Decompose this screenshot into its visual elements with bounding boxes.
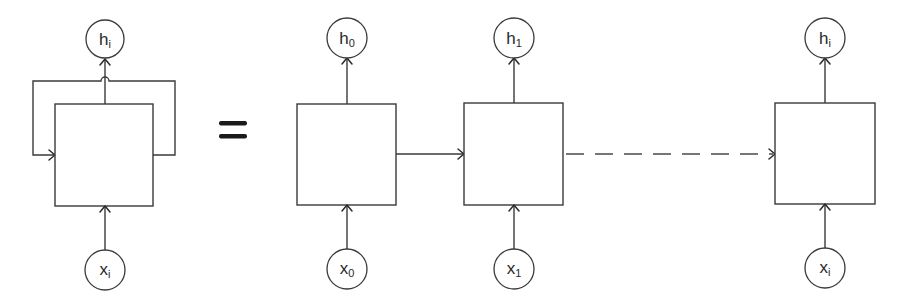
- output-node-label: h: [819, 29, 828, 48]
- unrolled-cell-0: h0 x0: [297, 18, 396, 289]
- output-node-label: h: [506, 29, 515, 48]
- output-node: hi: [805, 18, 845, 58]
- output-node: hi: [86, 20, 124, 58]
- rnn-cell-box: [55, 104, 153, 206]
- output-node: h1: [494, 18, 534, 58]
- input-node-subscript: i: [108, 268, 110, 280]
- rnn-diagram: hi xi h0 x0: [0, 0, 905, 305]
- rnn-cell-box: [297, 104, 396, 205]
- unrolled-cell-1: h1 x1: [464, 18, 563, 289]
- input-node-subscript: 0: [348, 267, 354, 279]
- output-node-subscript: 0: [349, 37, 355, 49]
- unrolled-cell-i: hi xi: [775, 18, 875, 288]
- equals-sign: [219, 121, 247, 139]
- input-node: x0: [327, 249, 367, 289]
- output-node-label: h: [339, 29, 348, 48]
- output-node-label: h: [99, 30, 108, 49]
- input-node-subscript: 1: [515, 267, 521, 279]
- output-node: h0: [327, 18, 367, 58]
- output-node-subscript: 1: [516, 37, 522, 49]
- output-node-subscript: i: [829, 37, 831, 49]
- input-node: x1: [494, 249, 534, 289]
- input-node: xi: [85, 250, 125, 290]
- input-node: xi: [805, 248, 845, 288]
- output-node-subscript: i: [109, 38, 111, 50]
- rnn-cell-box: [775, 103, 875, 204]
- folded-rnn-cell: hi xi: [33, 20, 175, 290]
- rnn-cell-box: [464, 103, 563, 205]
- input-node-subscript: i: [828, 266, 830, 278]
